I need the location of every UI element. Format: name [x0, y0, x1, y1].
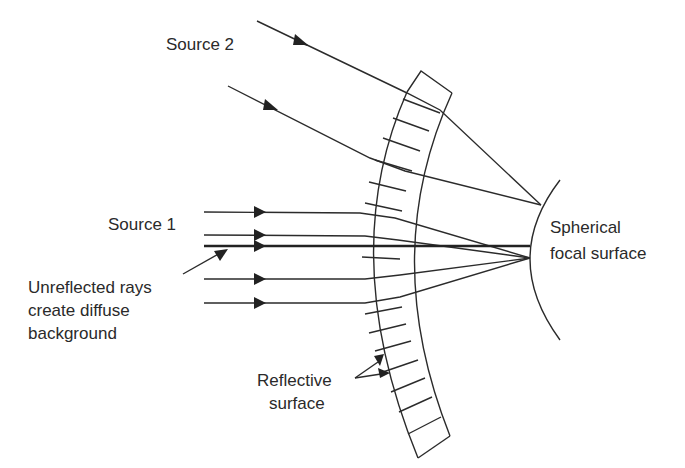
label-source2: Source 2 — [166, 35, 234, 54]
arrow-icon — [293, 34, 308, 45]
optics-diagram: Source 2 Source 1 Unreflected rays creat… — [0, 0, 685, 468]
reflective-pointer — [355, 354, 390, 378]
source2-rays — [228, 21, 541, 205]
arrow-icon — [254, 240, 266, 252]
reflective-band — [362, 71, 452, 458]
label-reflective-1: Reflective — [257, 371, 332, 390]
arrow-icon — [263, 99, 278, 110]
label-focal-2: focal surface — [550, 244, 646, 263]
unreflected-pointer — [183, 249, 228, 274]
arrow-icon — [254, 273, 266, 285]
label-unreflected-2: create diffuse — [28, 301, 130, 320]
label-focal-1: Spherical — [550, 218, 621, 237]
arrow-icon — [254, 297, 266, 309]
arrow-icon — [254, 206, 266, 218]
label-source1: Source 1 — [108, 215, 176, 234]
arrow-icon — [254, 229, 266, 241]
label-unreflected-3: background — [28, 324, 117, 343]
label-unreflected-1: Unreflected rays — [28, 278, 152, 297]
label-reflective-2: surface — [269, 394, 325, 413]
